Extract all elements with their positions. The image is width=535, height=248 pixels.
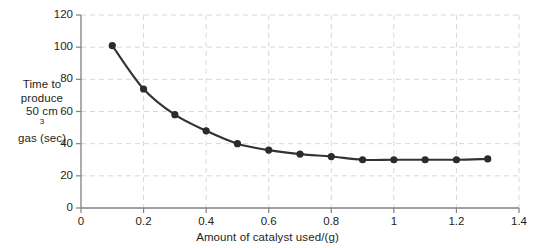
y-tick-label: 40 <box>27 137 73 149</box>
y-axis-label-superscript: 3 <box>40 117 45 126</box>
y-tick-label: 60 <box>27 105 73 117</box>
axis-ticks <box>76 15 519 213</box>
x-tick-label: 0.6 <box>249 215 289 227</box>
data-series-line <box>112 46 487 160</box>
chart-figure: Time to produce 50 cm3 gas (sec) Amount … <box>0 0 535 248</box>
data-point-marker <box>296 151 303 158</box>
x-axis-label: Amount of catalyst used/(g) <box>0 231 535 243</box>
data-point-markers <box>109 42 492 163</box>
x-tick-label: 0.2 <box>124 215 164 227</box>
data-point-marker <box>453 156 460 163</box>
data-point-marker <box>422 156 429 163</box>
data-point-marker <box>359 156 366 163</box>
data-point-marker <box>234 140 241 147</box>
chart-plot-area <box>0 0 535 248</box>
x-tick-label: 1 <box>374 215 414 227</box>
x-tick-label: 0.4 <box>186 215 226 227</box>
grid-lines <box>81 15 519 208</box>
x-tick-label: 0 <box>61 215 101 227</box>
y-axis-label-line-2: produce <box>8 92 76 106</box>
data-point-marker <box>109 42 116 49</box>
y-tick-label: 100 <box>27 40 73 52</box>
y-tick-label: 20 <box>27 169 73 181</box>
y-tick-label: 120 <box>27 8 73 20</box>
data-point-marker <box>203 127 210 134</box>
x-tick-label: 1.2 <box>436 215 476 227</box>
data-point-marker <box>484 155 491 162</box>
x-tick-label: 1.4 <box>499 215 535 227</box>
data-point-marker <box>390 156 397 163</box>
x-tick-label: 0.8 <box>311 215 351 227</box>
data-point-marker <box>171 111 178 118</box>
y-tick-label: 80 <box>27 72 73 84</box>
data-point-marker <box>265 147 272 154</box>
data-point-marker <box>328 153 335 160</box>
y-tick-label: 0 <box>27 201 73 213</box>
data-point-marker <box>140 85 147 92</box>
